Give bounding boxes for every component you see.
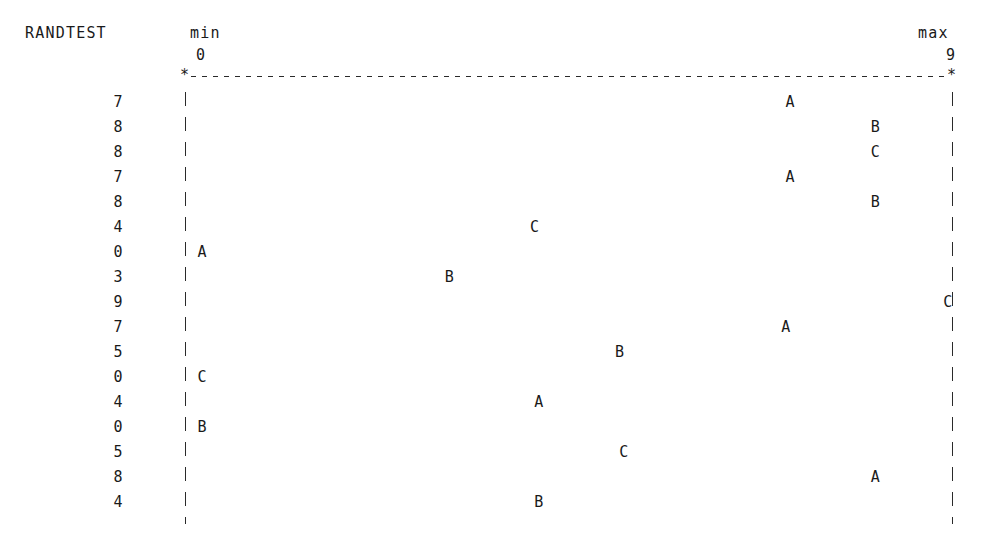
axis-max-star-icon: * xyxy=(947,68,956,83)
row-value-label: 8 xyxy=(108,117,128,138)
top-axis-rule xyxy=(191,76,948,77)
page-title: RANDTEST xyxy=(25,24,107,42)
plot-row: 9C xyxy=(0,292,983,317)
plot-row: 7A xyxy=(0,167,983,192)
axis-min-value: 0 xyxy=(196,46,205,64)
data-point-b: B xyxy=(871,117,883,138)
data-point-c: C xyxy=(943,292,955,313)
data-point-a: A xyxy=(871,467,883,488)
data-point-c: C xyxy=(530,217,542,238)
row-value-label: 4 xyxy=(108,492,128,513)
data-point-b: B xyxy=(198,417,210,438)
data-point-c: C xyxy=(871,142,883,163)
row-value-label: 0 xyxy=(108,367,128,388)
plot-row: 7A xyxy=(0,92,983,117)
row-value-label: 5 xyxy=(108,442,128,463)
data-point-a: A xyxy=(198,242,210,263)
row-value-label: 0 xyxy=(108,242,128,263)
row-value-label: 0 xyxy=(108,417,128,438)
plot-rows: 7A8B8C7A8B4C0A3B9C7A5B0C4A0B5C8A4B xyxy=(0,92,983,517)
data-point-b: B xyxy=(615,342,627,363)
data-point-a: A xyxy=(786,167,798,188)
row-value-label: 7 xyxy=(108,167,128,188)
row-value-label: 7 xyxy=(108,92,128,113)
row-value-label: 7 xyxy=(108,317,128,338)
plot-row: 3B xyxy=(0,267,983,292)
plot-row: 8B xyxy=(0,192,983,217)
data-point-b: B xyxy=(534,492,546,513)
data-point-c: C xyxy=(198,367,210,388)
plot-row: 4A xyxy=(0,392,983,417)
plot-row: 5C xyxy=(0,442,983,467)
data-point-a: A xyxy=(786,92,798,113)
row-value-label: 8 xyxy=(108,192,128,213)
plot-row: 8C xyxy=(0,142,983,167)
randtest-plot: RANDTEST min 0 max 9 * * 7A8B8C7A8B4C0A3… xyxy=(0,0,983,533)
data-point-b: B xyxy=(445,267,457,288)
axis-min-label: min xyxy=(190,24,221,42)
row-value-label: 9 xyxy=(108,292,128,313)
plot-row: 0C xyxy=(0,367,983,392)
plot-row: 0A xyxy=(0,242,983,267)
row-value-label: 8 xyxy=(108,142,128,163)
plot-row: 4C xyxy=(0,217,983,242)
axis-max-label: max xyxy=(918,24,949,42)
row-value-label: 4 xyxy=(108,392,128,413)
data-point-b: B xyxy=(871,192,883,213)
data-point-a: A xyxy=(534,392,546,413)
data-point-c: C xyxy=(619,442,631,463)
row-value-label: 8 xyxy=(108,467,128,488)
plot-row: 5B xyxy=(0,342,983,367)
row-value-label: 3 xyxy=(108,267,128,288)
row-value-label: 5 xyxy=(108,342,128,363)
axis-max-value: 9 xyxy=(946,46,955,64)
row-value-label: 4 xyxy=(108,217,128,238)
plot-row: 0B xyxy=(0,417,983,442)
axis-min-star-icon: * xyxy=(180,68,189,83)
plot-row: 8B xyxy=(0,117,983,142)
plot-row: 4B xyxy=(0,492,983,517)
plot-row: 8A xyxy=(0,467,983,492)
data-point-a: A xyxy=(781,317,793,338)
plot-row: 7A xyxy=(0,317,983,342)
